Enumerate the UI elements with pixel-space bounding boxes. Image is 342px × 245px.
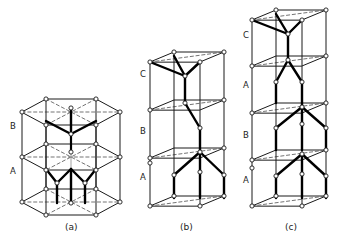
panel-c-bonds <box>252 14 326 198</box>
panel-c-caption: (c) <box>285 222 297 232</box>
panel-c-layer-label-b: B <box>243 130 249 140</box>
panel-b-caption: (b) <box>180 222 193 232</box>
panel-c-layer-label-a-lower: A <box>243 175 249 185</box>
panel-c-layer-label-c: C <box>243 30 249 40</box>
panel-a-caption: (a) <box>65 222 78 232</box>
panel-b-layer-label-c: C <box>140 69 146 79</box>
panel-b-layer-label-b: B <box>140 126 146 136</box>
panel-a-layer-label-b: B <box>10 121 16 131</box>
panel-b-layer-label-a: A <box>140 172 146 182</box>
panel-c-layer-label-a-upper: A <box>243 80 249 90</box>
crystal-structure-figure: B A C B A C A B A (a) (b) (c) <box>0 0 342 245</box>
panel-a-layer-label-a: A <box>10 166 16 176</box>
structure-drawing <box>0 0 342 245</box>
